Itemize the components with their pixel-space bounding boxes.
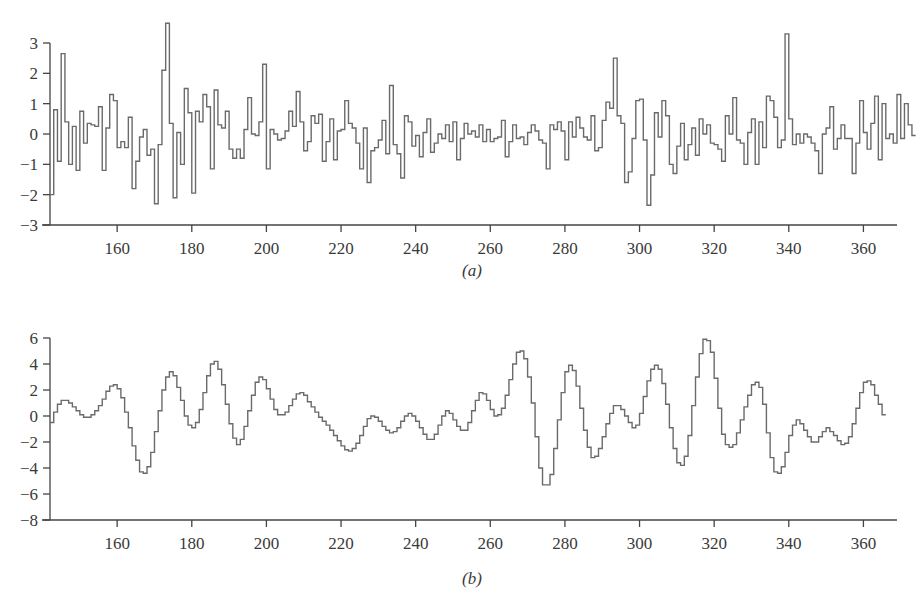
y-tick-label: −8 (20, 511, 38, 530)
chart-b-axes: −8−6−4−202461601802002202402602803003203… (20, 329, 897, 553)
y-tick-label: −2 (20, 186, 38, 205)
y-tick-label: −4 (20, 459, 39, 478)
x-tick-label: 300 (627, 534, 653, 553)
x-tick-label: 360 (851, 534, 877, 553)
y-tick-label: −2 (20, 433, 38, 452)
y-tick-label: 0 (30, 407, 39, 426)
y-tick-label: 2 (30, 64, 39, 83)
x-tick-label: 340 (776, 534, 802, 553)
y-tick-label: 6 (30, 329, 39, 348)
figure: −3−2−10123160180200220240260280300320340… (0, 0, 920, 604)
x-tick-label: 340 (776, 239, 802, 258)
x-tick-label: 240 (403, 534, 429, 553)
x-tick-label: 280 (552, 534, 578, 553)
x-tick-label: 260 (478, 534, 504, 553)
x-tick-label: 200 (254, 534, 280, 553)
x-tick-label: 320 (701, 534, 727, 553)
chart-panel-a: −3−2−10123160180200220240260280300320340… (20, 23, 916, 280)
x-tick-label: 160 (104, 534, 130, 553)
y-tick-label: 1 (30, 95, 39, 114)
x-tick-label: 220 (328, 239, 354, 258)
chart-b-caption: (b) (462, 569, 482, 588)
x-tick-label: 220 (328, 534, 354, 553)
chart-a-axes: −3−2−10123160180200220240260280300320340… (20, 34, 897, 258)
y-tick-label: −6 (20, 485, 38, 504)
chart-panel-b: −8−6−4−202461601802002202402602803003203… (20, 329, 897, 588)
x-tick-label: 300 (627, 239, 653, 258)
y-tick-label: 2 (30, 381, 39, 400)
x-tick-label: 240 (403, 239, 429, 258)
y-tick-label: 0 (30, 125, 39, 144)
x-tick-label: 260 (478, 239, 504, 258)
y-tick-label: −3 (20, 216, 38, 235)
x-tick-label: 180 (179, 239, 205, 258)
x-tick-label: 160 (104, 239, 130, 258)
x-tick-label: 200 (254, 239, 280, 258)
chart-a-caption: (a) (462, 261, 482, 280)
y-tick-label: 3 (30, 34, 39, 53)
y-tick-label: 4 (30, 355, 39, 374)
chart-a-step-series (50, 23, 916, 205)
y-tick-label: −1 (20, 155, 38, 174)
chart-b-step-series (50, 339, 886, 485)
x-tick-label: 360 (851, 239, 877, 258)
x-tick-label: 180 (179, 534, 205, 553)
x-tick-label: 320 (701, 239, 727, 258)
x-tick-label: 280 (552, 239, 578, 258)
